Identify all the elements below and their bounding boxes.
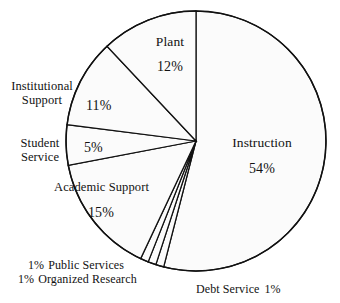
slice-label-instruction: Instruction 54% [216, 135, 308, 177]
slice-value-plant: 12% [132, 59, 208, 75]
slice-value-organized-research: 1% [18, 272, 34, 286]
slice-value-institutional-support: 11% [86, 98, 130, 114]
slice-label-public-services: 1%Public Services [28, 259, 178, 272]
slice-label-debt-service: Debt Service1% [196, 283, 322, 296]
slice-label-organized-research: 1%Organized Research [18, 273, 188, 286]
slice-label-student-service-line1: Student [4, 136, 76, 150]
slice-value-academic-support: 15% [88, 205, 134, 221]
slice-label-academic-support: Academic Support [54, 180, 182, 194]
pie-chart: Plant 12% Instruction 54% Institutional … [0, 0, 340, 303]
slice-value-student-service: 5% [84, 140, 124, 156]
slice-label-student-service: Student Service [4, 136, 76, 164]
slice-label-organized-research-name: Organized Research [38, 272, 137, 286]
slice-label-public-services-name: Public Services [48, 258, 124, 272]
slice-value-debt-service: 1% [265, 282, 281, 296]
slice-label-debt-service-name: Debt Service [196, 282, 260, 296]
slice-label-institutional-support: Institutional Support [2, 79, 82, 107]
slice-value-instruction: 54% [216, 161, 308, 177]
slice-value-public-services: 1% [28, 258, 44, 272]
slice-label-institutional-support-line1: Institutional [2, 79, 82, 93]
slice-label-instruction-name: Instruction [216, 135, 308, 150]
slice-label-plant-name: Plant [132, 34, 208, 49]
slice-label-plant: Plant 12% [132, 34, 208, 75]
slice-label-institutional-support-line2: Support [2, 93, 82, 107]
slice-label-student-service-line2: Service [4, 150, 76, 164]
